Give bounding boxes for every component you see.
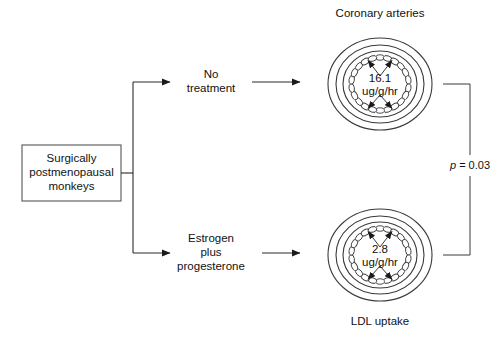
figure-canvas: Surgically postmenopausal monkeys No tre… xyxy=(0,0,502,338)
branch-label-no-treatment: No treatment xyxy=(187,68,236,94)
branch-label-line-1: No xyxy=(204,68,219,80)
vessel-units-bottom: ug/g/hr xyxy=(362,256,398,268)
p-value-annotation: p = 0.03 xyxy=(449,159,490,171)
ldl-uptake-caption: LDL uptake xyxy=(351,315,409,327)
p-value-text: = 0.03 xyxy=(456,159,490,171)
branch-label-line-2: plus xyxy=(200,246,221,258)
vessel-value-top: 16.1 xyxy=(369,72,391,84)
branch-label-line-3: progesterone xyxy=(177,260,245,272)
coronary-arteries-title: Coronary arteries xyxy=(336,7,425,19)
branch-splitter xyxy=(121,82,170,253)
source-box-line-1: Surgically xyxy=(47,152,97,164)
branch-label-line-2: treatment xyxy=(187,82,236,94)
branch-label-estrogen-progesterone: Estrogen plus progesterone xyxy=(177,232,245,272)
p-symbol: p xyxy=(449,159,456,171)
source-box-line-2: postmenopausal xyxy=(29,166,113,178)
vessel-value-bottom: 2.8 xyxy=(372,243,388,255)
vessel-units-top: ug/g/hr xyxy=(362,85,398,97)
branch-label-line-1: Estrogen xyxy=(188,232,234,244)
vessel-cross-section-bottom: 2.8 ug/g/hr xyxy=(328,209,432,301)
vessel-cross-section-top: 16.1 ug/g/hr xyxy=(328,38,432,130)
source-box: Surgically postmenopausal monkeys xyxy=(22,145,121,201)
source-box-line-3: monkeys xyxy=(48,180,94,192)
